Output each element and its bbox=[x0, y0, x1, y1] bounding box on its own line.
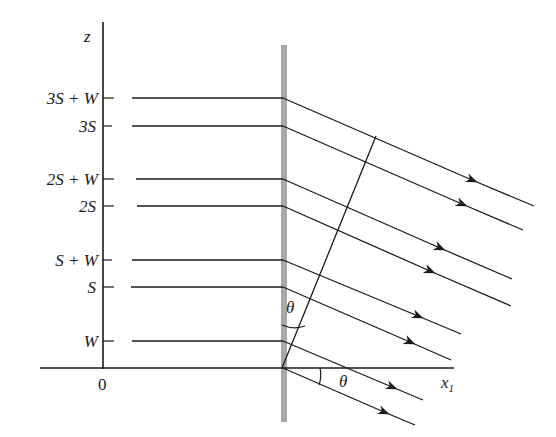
incoming-lines bbox=[131, 98, 283, 341]
z-axis-label: z bbox=[83, 27, 91, 46]
level-label-3s: 3S bbox=[78, 117, 97, 136]
z-axis-ticks bbox=[103, 98, 114, 341]
level-label-2s: 2S bbox=[79, 197, 97, 216]
refraction-diagram: 3S + W 3S 2S + W 2S S + W S W z 0 x1 θ θ bbox=[0, 0, 556, 437]
wavefront-line bbox=[282, 136, 376, 368]
level-label-s-plus-w: S + W bbox=[55, 251, 99, 270]
origin-label: 0 bbox=[98, 375, 107, 394]
wall-boundary bbox=[281, 45, 287, 422]
level-label-s: S bbox=[88, 278, 97, 297]
diagram-canvas: 3S + W 3S 2S + W 2S S + W S W z 0 x1 θ θ bbox=[0, 0, 556, 437]
x-axis-label: x1 bbox=[440, 373, 454, 394]
lower-angle-arc bbox=[319, 368, 321, 385]
upper-theta-label: θ bbox=[286, 298, 294, 317]
level-label-2s-plus-w: 2S + W bbox=[47, 170, 100, 189]
level-label-w: W bbox=[84, 332, 100, 351]
level-label-3s-plus-w: 3S + W bbox=[46, 89, 100, 108]
lower-theta-label: θ bbox=[339, 372, 347, 391]
z-level-labels: 3S + W 3S 2S + W 2S S + W S W bbox=[46, 89, 100, 351]
